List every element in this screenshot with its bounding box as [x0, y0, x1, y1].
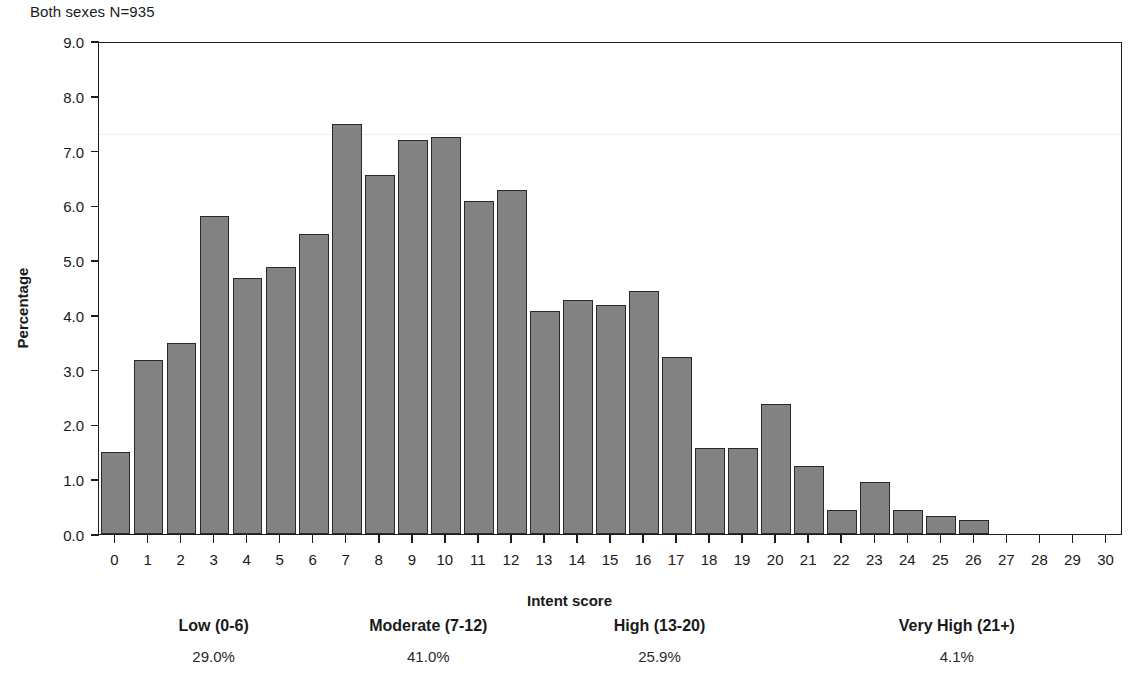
x-axis-tick: [345, 535, 347, 543]
bar: [695, 448, 725, 534]
bar: [431, 137, 461, 534]
x-axis-tick: [1072, 535, 1074, 543]
x-axis-tick: [708, 535, 710, 543]
y-axis-tick: [91, 425, 99, 427]
category-label: High (13-20): [510, 617, 810, 635]
bar: [728, 448, 758, 534]
y-axis-tick-label: 4.0: [24, 307, 84, 324]
bar: [332, 124, 362, 534]
bar: [530, 311, 560, 534]
bar: [596, 305, 626, 534]
bar: [662, 357, 692, 534]
y-axis-tick: [91, 96, 99, 98]
x-axis-tick: [114, 535, 116, 543]
x-axis-tick: [609, 535, 611, 543]
scan-artifact-line: [99, 134, 1121, 135]
category-label: Very High (21+): [807, 617, 1107, 635]
y-axis-tick: [91, 206, 99, 208]
plot-area: [98, 42, 1122, 535]
y-axis-tick: [91, 315, 99, 317]
bar: [959, 520, 989, 534]
x-axis-tick: [510, 535, 512, 543]
category-percentage: 4.1%: [807, 648, 1107, 665]
y-axis-tick: [91, 260, 99, 262]
bar: [233, 278, 263, 534]
x-axis-tick: [411, 535, 413, 543]
bar: [563, 300, 593, 534]
x-axis-tick: [246, 535, 248, 543]
bar: [398, 140, 428, 534]
x-axis-tick: [279, 535, 281, 543]
x-axis-tick: [907, 535, 909, 543]
bar: [761, 404, 791, 534]
bar: [101, 452, 131, 534]
bar: [200, 216, 230, 534]
y-axis-tick-label: 3.0: [24, 362, 84, 379]
bar: [266, 267, 296, 534]
x-axis-tick: [312, 535, 314, 543]
x-axis-tick: [1006, 535, 1008, 543]
bar: [167, 343, 197, 534]
x-axis-tick: [378, 535, 380, 543]
bars-container: [99, 43, 1121, 534]
x-axis-tick: [741, 535, 743, 543]
y-axis-tick-label: 0.0: [24, 527, 84, 544]
x-axis-tick: [1105, 535, 1107, 543]
x-axis-tick: [444, 535, 446, 543]
y-axis-tick: [91, 479, 99, 481]
bar: [299, 234, 329, 534]
bar: [794, 466, 824, 534]
x-axis-tick: [1039, 535, 1041, 543]
chart-caption: Both sexes N=935: [30, 3, 155, 20]
y-axis-tick-label: 2.0: [24, 417, 84, 434]
y-axis-tick-label: 6.0: [24, 198, 84, 215]
y-axis-tick: [91, 41, 99, 43]
x-axis-tick: [576, 535, 578, 543]
x-axis-tick-label: 30: [1085, 551, 1125, 568]
x-axis-tick: [874, 535, 876, 543]
y-axis-tick-label: 1.0: [24, 472, 84, 489]
x-axis-tick: [642, 535, 644, 543]
bar: [629, 291, 659, 534]
bar: [464, 201, 494, 534]
y-axis-tick: [91, 370, 99, 372]
x-axis-tick: [213, 535, 215, 543]
y-axis-tick-label: 5.0: [24, 253, 84, 270]
bar: [497, 190, 527, 534]
category-percentage: 25.9%: [510, 648, 810, 665]
x-axis-tick: [940, 535, 942, 543]
x-axis-tick: [973, 535, 975, 543]
y-axis-tick-label: 9.0: [24, 34, 84, 51]
bar: [134, 360, 164, 534]
y-axis-tick: [91, 151, 99, 153]
y-axis-tick-label: 7.0: [24, 143, 84, 160]
bar: [926, 516, 956, 534]
y-axis-tick-label: 8.0: [24, 88, 84, 105]
x-axis-tick: [477, 535, 479, 543]
bar: [893, 510, 923, 534]
x-axis-title: Intent score: [0, 592, 1139, 609]
x-axis-tick: [180, 535, 182, 543]
chart-figure: Both sexes N=935 Percentage 0.01.02.03.0…: [0, 0, 1139, 679]
bar: [365, 175, 395, 534]
x-axis-tick: [147, 535, 149, 543]
x-axis-tick: [807, 535, 809, 543]
x-axis-tick: [543, 535, 545, 543]
bar: [827, 510, 857, 534]
y-axis-tick: [91, 534, 99, 536]
x-axis-tick: [675, 535, 677, 543]
bar: [860, 482, 890, 534]
x-axis-tick: [774, 535, 776, 543]
x-axis-tick: [840, 535, 842, 543]
